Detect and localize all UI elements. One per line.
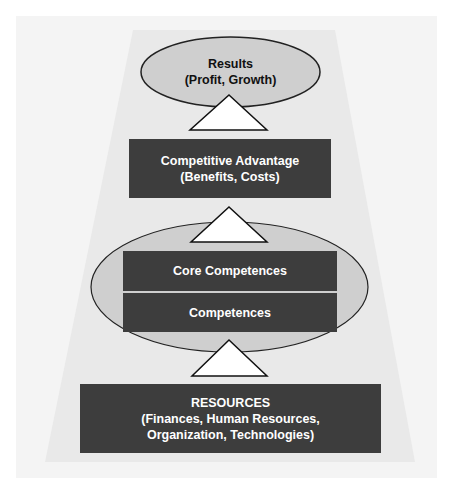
competitive-advantage-label: Competitive Advantage (Benefits, Costs)	[129, 139, 331, 198]
core-competences-label: Core Competences	[123, 251, 337, 291]
resources-line1: (Finances, Human Resources,	[141, 411, 320, 427]
resources-title: RESOURCES	[191, 395, 270, 411]
competences-label: Competences	[123, 293, 337, 332]
competitive-advantage-subtitle: (Benefits, Costs)	[180, 169, 279, 185]
results-title: Results	[208, 56, 253, 72]
competitive-advantage-title: Competitive Advantage	[161, 153, 299, 169]
competences-text: Competences	[189, 305, 271, 321]
core-competences-text: Core Competences	[173, 263, 287, 279]
resources-label: RESOURCES (Finances, Human Resources, Or…	[80, 384, 381, 453]
resources-line2: Organization, Technologies)	[147, 427, 314, 443]
results-subtitle: (Profit, Growth)	[185, 72, 277, 88]
results-label: Results (Profit, Growth)	[141, 52, 320, 92]
